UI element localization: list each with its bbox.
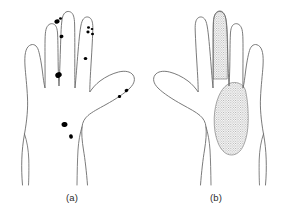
lesion-spot: [59, 34, 64, 38]
panel-b: (b): [144, 0, 288, 218]
lesion-spot: [59, 17, 62, 20]
wrist-crease-left-a: [25, 134, 29, 185]
lesion-spot: [84, 57, 88, 60]
lesion-spot: [54, 71, 62, 79]
lesion-spot-group-a: [54, 17, 129, 139]
lesion-spot: [54, 19, 60, 25]
thumb-web-crease-a: [77, 127, 82, 185]
lesion-spot: [61, 121, 68, 127]
figure-root: (a) (b): [0, 0, 288, 218]
lesion-spot: [91, 28, 94, 30]
panel-caption-a: (a): [0, 192, 144, 204]
lesion-spot: [91, 33, 94, 36]
hand-diagram-a: [0, 0, 144, 190]
panel-caption-b: (b): [144, 192, 288, 204]
stipple-area-palm: [214, 82, 248, 155]
hand-outline-a: [22, 11, 135, 185]
panel-a: (a): [0, 0, 144, 218]
hand-outline-b: [154, 11, 267, 185]
lesion-spot: [69, 134, 74, 139]
hand-diagram-b: [144, 0, 288, 190]
wrist-crease-left-b: [259, 134, 263, 185]
lesion-spot: [87, 26, 90, 29]
lesion-spot: [86, 31, 89, 34]
thumb-web-crease-b: [206, 127, 211, 185]
stipple-area-middle-finger: [213, 11, 228, 79]
